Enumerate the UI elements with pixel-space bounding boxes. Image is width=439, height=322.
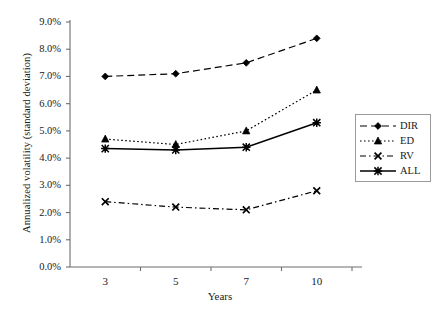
data-point-dir: [313, 35, 320, 42]
legend-marker-triangle-icon: [359, 134, 397, 148]
legend-point: [374, 166, 382, 174]
series-line-all: [105, 123, 317, 150]
legend-item-rv[interactable]: RV: [356, 148, 430, 163]
legend-item-label: ALL: [397, 164, 420, 178]
line-chart: Annualized volatility (standard deviatio…: [0, 0, 439, 322]
legend-marker-x-icon: [359, 149, 397, 163]
data-point-dir: [102, 73, 109, 80]
data-point-ed: [243, 127, 250, 134]
data-point-rv: [313, 187, 320, 194]
legend-item-dir[interactable]: DIR: [356, 118, 430, 133]
data-point-ed: [313, 86, 320, 93]
series-rv: [102, 187, 320, 213]
legend-item-label: RV: [397, 149, 414, 163]
data-point-ed: [102, 135, 109, 142]
legend-point: [375, 122, 382, 129]
legend-item-label: ED: [397, 134, 414, 148]
data-point-dir: [243, 59, 250, 66]
legend: DIREDRVALL: [355, 114, 431, 182]
legend-item-all[interactable]: ALL: [356, 163, 430, 178]
data-series-layer: [101, 35, 321, 213]
axis-lines: [66, 20, 362, 271]
data-point-all: [101, 144, 109, 152]
series-line-ed: [105, 90, 317, 144]
legend-marker-diamond-icon: [359, 119, 397, 133]
series-line-dir: [105, 38, 317, 76]
series-all: [101, 119, 321, 155]
data-point-all: [313, 119, 321, 127]
series-dir: [102, 35, 320, 80]
data-point-dir: [172, 70, 179, 77]
legend-item-ed[interactable]: ED: [356, 133, 430, 148]
series-ed: [102, 86, 321, 147]
data-point-all: [172, 146, 180, 154]
legend-item-label: DIR: [397, 119, 418, 133]
legend-marker-asterisk-icon: [359, 164, 397, 178]
data-point-all: [242, 143, 250, 151]
series-line-rv: [105, 191, 317, 210]
